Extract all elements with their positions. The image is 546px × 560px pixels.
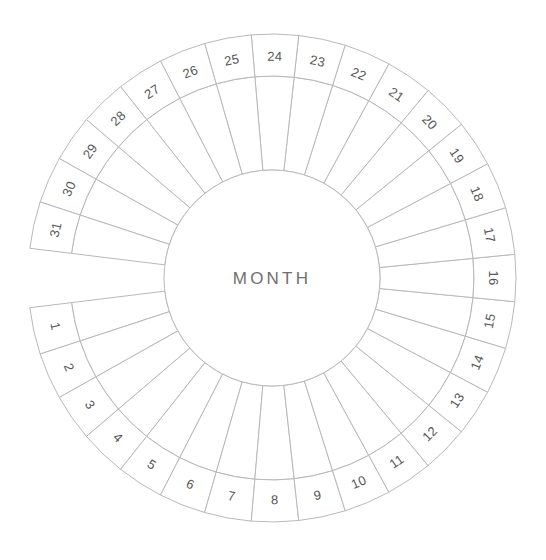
day-number-label: 15 (481, 312, 499, 330)
calendar-wheel-container: 1234567891011121314151617181920212223242… (0, 0, 546, 560)
day-number-label: 25 (223, 51, 241, 68)
day-number-label: 31 (47, 221, 65, 239)
calendar-wheel-svg: 1234567891011121314151617181920212223242… (0, 0, 546, 560)
day-number-label: 17 (481, 226, 499, 244)
day-number-label: 16 (486, 270, 501, 285)
day-number-label: 24 (267, 49, 282, 64)
day-number-label: 8 (271, 492, 279, 507)
month-title: MONTH (233, 269, 311, 288)
day-number-label: 23 (309, 52, 327, 70)
